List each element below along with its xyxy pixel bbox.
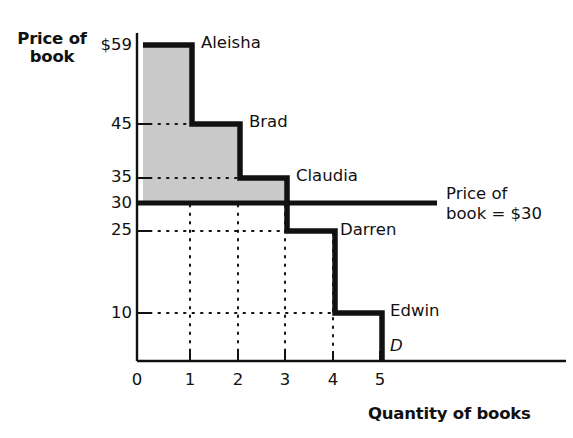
x-axis-title: Quantity of books xyxy=(368,405,531,423)
y-tick-label-25: 25 xyxy=(60,220,132,239)
demand-curve-figure: Price of book Quantity of books $59 45 3… xyxy=(0,0,573,438)
y-tick-label-45: 45 xyxy=(60,114,132,133)
step-label-claudia: Claudia xyxy=(296,166,358,185)
demand-curve-label: D xyxy=(390,336,403,355)
y-tick-label-35: 35 xyxy=(60,167,132,186)
x-tick-label-4: 4 xyxy=(321,370,345,389)
step-label-brad: Brad xyxy=(249,112,288,131)
price-line-annotation: Price of book = $30 xyxy=(446,184,542,224)
price-line-annotation-line2: book = $30 xyxy=(446,204,542,224)
x-tick-marks xyxy=(190,351,380,361)
step-label-edwin: Edwin xyxy=(390,301,439,320)
x-tick-label-0: 0 xyxy=(125,370,149,389)
x-tick-label-1: 1 xyxy=(178,370,202,389)
y-tick-label-30: 30 xyxy=(60,193,132,212)
x-tick-label-3: 3 xyxy=(273,370,297,389)
step-label-darren: Darren xyxy=(340,220,396,239)
y-tick-label-10: 10 xyxy=(60,303,132,322)
step-label-aleisha: Aleisha xyxy=(201,33,261,52)
x-tick-label-2: 2 xyxy=(226,370,250,389)
x-tick-label-5: 5 xyxy=(368,370,392,389)
price-line-annotation-line1: Price of xyxy=(446,184,542,204)
y-tick-label-59: $59 xyxy=(60,35,132,54)
